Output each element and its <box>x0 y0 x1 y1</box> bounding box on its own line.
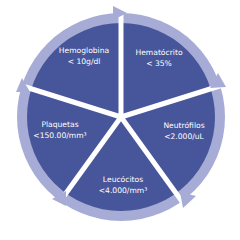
segment-leucocitos: Leucócitos <4.000/mm³ <box>99 174 148 196</box>
segment-value: < 10g/dl <box>59 56 109 67</box>
segment-name: Neutrófilos <box>163 120 204 131</box>
segment-name: Hemoglobina <box>59 45 109 56</box>
segment-name: Leucócitos <box>99 174 148 185</box>
segment-name: Hematócrito <box>135 47 182 58</box>
segment-value: <2.000/uL <box>163 131 204 142</box>
segment-hemoglobina: Hemoglobina < 10g/dl <box>59 45 109 67</box>
segment-value: <4.000/mm³ <box>99 185 148 196</box>
segment-neutrofilos: Neutrófilos <2.000/uL <box>163 120 204 142</box>
segment-value: <150.00/mm³ <box>33 130 86 141</box>
segment-value: < 35% <box>135 58 182 69</box>
segment-name: Plaquetas <box>33 119 86 130</box>
segment-plaquetas: Plaquetas <150.00/mm³ <box>33 119 86 141</box>
segment-hematocrito: Hematócrito < 35% <box>135 47 182 69</box>
